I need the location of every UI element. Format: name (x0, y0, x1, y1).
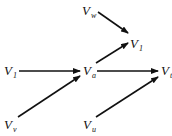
node-v1-sub: 1 (139, 44, 143, 53)
edge-vv-va (18, 76, 80, 117)
edge-va-v1 (96, 43, 128, 63)
node-vt-sub: t (170, 71, 172, 80)
directed-graph-diagram: Vw V1 V1 Va Vt Vv Vu (0, 0, 172, 136)
edge-vw-v1 (98, 12, 128, 33)
node-va-base: V (83, 63, 91, 78)
node-vu: Vu (83, 118, 96, 131)
node-vv: Vv (4, 118, 17, 131)
node-vt: Vt (161, 64, 172, 77)
node-vw-sub: w (91, 11, 96, 20)
edge-vu-vt (96, 77, 158, 117)
node-vw: Vw (82, 4, 96, 17)
node-vu-base: V (83, 117, 91, 132)
node-vs-sub: 1 (13, 71, 17, 80)
node-vv-sub: v (13, 125, 17, 134)
node-vs: V1 (4, 64, 17, 77)
node-vu-sub: u (92, 125, 96, 134)
node-vv-base: V (4, 117, 12, 132)
node-vs-base: V (4, 63, 12, 78)
node-vt-base: V (161, 63, 169, 78)
node-va-sub: a (92, 71, 96, 80)
node-v1: V1 (130, 37, 143, 50)
node-vw-base: V (82, 3, 90, 18)
node-v1-base: V (130, 36, 138, 51)
node-va: Va (83, 64, 96, 77)
